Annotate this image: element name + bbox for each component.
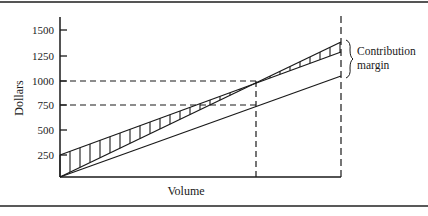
y-tick-500: 500 (38, 124, 55, 136)
y-tick-1250: 1250 (32, 50, 55, 62)
y-ticks (60, 30, 67, 155)
break-even-chart: 1500 1250 1000 750 500 250 Dollars Volum… (0, 0, 428, 216)
y-tick-1500: 1500 (32, 24, 55, 36)
contribution-margin-brace (346, 40, 353, 78)
y-tick-250: 250 (38, 149, 55, 161)
y-tick-750: 750 (38, 99, 55, 111)
variable-cost-line (60, 76, 341, 177)
total-cost-line (60, 52, 341, 155)
total-revenue-line (60, 42, 341, 177)
contribution-margin-label-line1: Contribution (357, 45, 416, 57)
y-axis-label: Dollars (12, 80, 26, 116)
x-axis-label: Volume (167, 184, 204, 198)
y-tick-1000: 1000 (32, 75, 55, 87)
contribution-margin-label-line2: margin (357, 59, 390, 72)
